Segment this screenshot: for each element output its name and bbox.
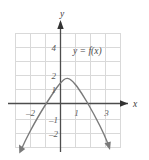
y-axis-name: y (59, 9, 65, 19)
y-axis-arrowhead (57, 20, 63, 29)
parabola-figure: –2 1 3 4 2 1 –1 –2 y x y = f(x) (0, 0, 149, 160)
y-tick-label-4: 4 (52, 43, 57, 53)
x-axis-name: x (132, 99, 138, 109)
curve-left-arrowhead (19, 145, 25, 154)
x-axis-arrowhead (120, 100, 128, 106)
function-label: y = f(x) (72, 46, 102, 57)
y-tick-label-neg2: –2 (48, 129, 59, 139)
x-tick-label-1: 1 (74, 108, 79, 118)
graph-canvas: –2 1 3 4 2 1 –1 –2 y x y = f(x) (0, 0, 149, 160)
x-tick-label-neg2: –2 (25, 108, 36, 118)
y-tick-label-2: 2 (52, 71, 57, 81)
x-axis (8, 100, 128, 106)
x-tick-label-3: 3 (103, 108, 109, 118)
y-tick-label-neg1: –1 (48, 115, 58, 125)
y-tick-label-1: 1 (52, 85, 57, 95)
